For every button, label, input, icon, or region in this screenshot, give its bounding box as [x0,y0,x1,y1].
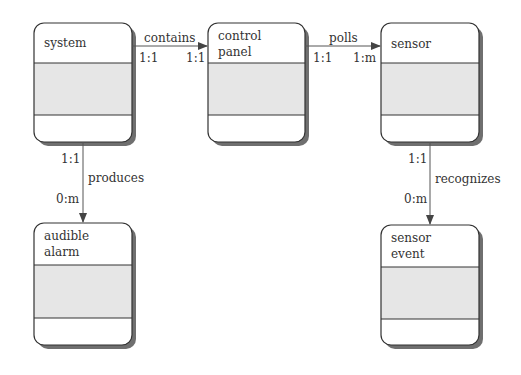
relationship-polls: polls 1:1 1:m [305,31,380,65]
cardinality-from: 1:1 [139,51,158,65]
diagram-canvas: system control panel sensor [0,0,521,375]
cardinality-to: 0:m [404,192,428,206]
object-name: panel [218,45,252,59]
relationship-produces: produces 1:1 0:m [56,142,144,222]
object-name: control [218,29,261,43]
object-name: event [391,247,425,261]
object-box-sensor-event: sensor event [381,225,483,349]
relationship-label: produces [88,171,144,185]
attributes-section [381,63,479,115]
attributes-section [34,265,132,318]
object-name: sensor [391,231,431,245]
object-box-system: system [34,23,136,146]
cardinality-to: 1:m [353,51,377,65]
object-name: alarm [44,245,80,259]
relationship-label: recognizes [435,172,501,186]
object-name: audible [44,229,89,243]
relationship-label: contains [144,31,195,45]
object-box-audible-alarm: audible alarm [34,223,136,349]
relationship-recognizes: recognizes 1:1 0:m [404,142,501,224]
object-box-sensor: sensor [381,23,483,146]
relationship-contains: contains 1:1 1:1 [132,31,207,65]
relationship-label: polls [329,31,358,45]
cardinality-to: 0:m [56,192,80,206]
attributes-section [34,63,132,115]
attributes-section [208,63,305,115]
cardinality-to: 1:1 [186,51,205,65]
cardinality-from: 1:1 [313,51,332,65]
cardinality-from: 1:1 [408,152,427,166]
object-name: sensor [391,37,431,51]
object-box-control-panel: control panel [208,23,309,146]
cardinality-from: 1:1 [61,152,80,166]
attributes-section [381,267,479,319]
object-name: system [44,36,87,50]
